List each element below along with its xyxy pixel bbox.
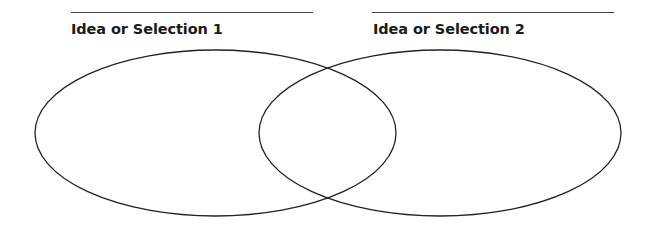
set-2-ellipse (259, 50, 621, 216)
set-1-ellipse (35, 50, 396, 216)
venn-ellipses (0, 0, 651, 226)
